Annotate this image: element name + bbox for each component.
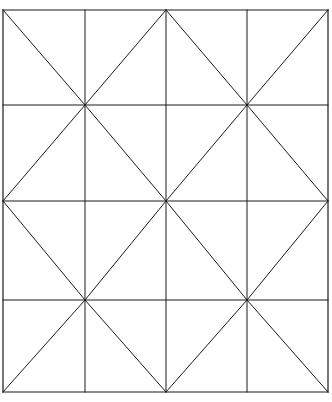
geometric-figure-canvas (0, 0, 332, 402)
figure-root (0, 0, 332, 402)
